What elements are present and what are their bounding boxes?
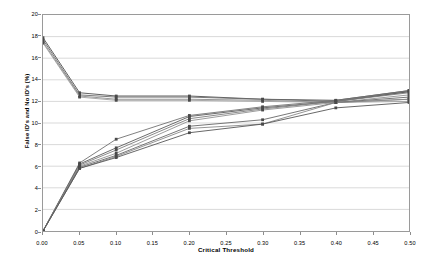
data-point-marker [78,96,81,99]
series-line [43,42,409,102]
y-tick-mark [38,210,41,211]
y-tick-mark [38,232,41,233]
x-tick-mark [336,232,337,235]
y-tick-label: 18 [4,33,38,39]
series-line [43,97,409,231]
y-tick-label: 6 [4,164,38,170]
y-tick-label: 20 [4,11,38,17]
chart-svg [43,15,409,231]
data-point-marker [261,123,264,126]
y-axis-tick-labels: 02468101214161820 [0,14,38,232]
y-tick-mark [38,144,41,145]
y-tick-mark [38,123,41,124]
data-point-marker [188,127,191,130]
data-point-marker [188,99,191,102]
y-tick-label: 12 [4,98,38,104]
plot-area [42,14,410,232]
series-line [43,91,409,231]
x-tick-mark [42,232,43,235]
x-tick-mark [263,232,264,235]
data-point-marker [408,101,409,104]
data-point-marker [188,119,191,122]
data-point-marker [261,100,264,103]
data-point-marker [115,99,118,102]
series-line [43,93,409,231]
series-line [43,102,409,231]
y-axis-title: False ID's and No ID's (%) [24,36,30,186]
data-point-marker [43,42,44,45]
y-tick-label: 0 [4,229,38,235]
series-false-ids-2 [43,38,409,102]
y-tick-mark [38,14,41,15]
x-tick-mark [226,232,227,235]
y-tick-mark [38,166,41,167]
series-no-ids-10 [43,98,409,231]
x-tick-mark [79,232,80,235]
y-tick-mark [38,35,41,36]
series-false-ids-1 [43,36,409,101]
data-point-marker [78,167,81,170]
y-tick-mark [38,188,41,189]
data-point-marker [43,230,44,231]
data-point-marker [188,131,191,134]
data-point-marker [261,118,264,121]
data-point-marker [261,109,264,112]
x-tick-mark [152,232,153,235]
x-tick-mark [410,232,411,235]
y-tick-label: 8 [4,142,38,148]
y-tick-label: 10 [4,120,38,126]
data-point-marker [115,156,118,159]
x-axis-tick-labels: 0.000.050.100.150.200.250.300.350.400.45… [42,236,410,246]
y-tick-label: 2 [4,207,38,213]
x-tick-mark [116,232,117,235]
data-point-marker [115,149,118,152]
y-tick-label: 4 [4,185,38,191]
x-tick-mark [189,232,190,235]
series-line [43,43,409,102]
data-point-marker [408,98,409,101]
series-line [43,99,409,231]
x-tick-mark [373,232,374,235]
data-point-marker [334,101,337,104]
series-line [43,40,409,102]
y-tick-mark [38,57,41,58]
data-point-marker [115,138,118,141]
y-tick-label: 14 [4,76,38,82]
y-tick-mark [38,101,41,102]
series-line [43,38,409,101]
chart-container: 02468101214161820 0.000.050.100.150.200.… [0,0,424,260]
y-tick-mark [38,79,41,80]
data-point-marker [334,106,337,109]
y-tick-label: 16 [4,55,38,61]
x-tick-mark [300,232,301,235]
x-axis-title: Critical Threshold [42,246,410,253]
